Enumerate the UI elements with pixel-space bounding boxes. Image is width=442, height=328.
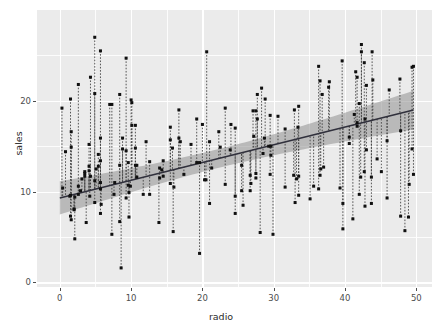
y-tick-label: 0 [13,277,31,287]
data-point [121,147,124,150]
data-point [134,124,137,127]
data-point [217,130,220,133]
data-point [162,175,165,178]
data-point [386,197,389,200]
data-point [148,160,151,163]
data-point [127,161,130,164]
data-point [269,173,272,176]
x-tick-label: 30 [268,293,279,303]
data-point [77,193,80,196]
data-point [403,229,406,232]
data-point [89,175,92,178]
data-point [249,182,252,185]
data-point [130,98,133,101]
data-point [341,227,344,230]
data-point [157,221,160,224]
data-point [162,159,165,162]
data-point [83,175,86,178]
y-axis-title: sales [13,114,24,174]
data-point [113,193,116,196]
data-point [408,183,411,186]
data-point [134,147,137,150]
data-point [190,143,193,146]
data-point [363,61,366,64]
data-point [182,173,185,176]
data-point [125,57,128,60]
data-point [359,176,362,179]
data-point [61,187,64,190]
data-point [70,218,73,221]
y-tick-mark [33,101,36,102]
data-point [254,177,257,180]
data-point [145,140,148,143]
data-point [125,197,128,200]
data-point [93,201,96,204]
data-point [365,84,368,87]
data-point [327,86,330,89]
x-tick-mark [345,288,346,291]
data-point [208,140,211,143]
data-point [69,215,72,218]
data-point [317,65,320,68]
plot-data-layer [0,0,442,328]
data-point [118,220,121,223]
data-point [130,124,133,127]
data-point [60,107,63,110]
data-point [127,191,130,194]
data-point [296,126,299,129]
data-point [399,129,402,132]
x-tick-label: 0 [57,293,62,303]
data-point [134,164,137,167]
data-point [99,49,102,52]
data-point [312,185,315,188]
data-point [99,137,102,140]
data-point [79,189,82,192]
data-point [210,167,213,170]
data-point [169,126,172,129]
data-point [365,148,368,151]
data-point [97,153,100,156]
data-point [363,170,366,173]
data-point [198,161,201,164]
data-point [284,127,287,130]
y-tick-label: 20 [13,96,31,106]
data-point [319,174,322,177]
data-point [399,215,402,218]
data-point [148,193,151,196]
data-point [264,98,267,101]
x-tick-label: 10 [126,293,137,303]
data-point [341,202,344,205]
data-point [360,50,363,53]
data-point [354,70,357,73]
data-point [73,196,76,199]
data-point [260,87,263,90]
x-tick-label: 50 [411,293,422,303]
data-point [272,233,275,236]
data-point [380,170,383,173]
data-point [319,79,322,82]
x-tick-mark [202,288,203,291]
x-tick-mark [60,288,61,291]
data-point [201,123,204,126]
data-point [224,183,227,186]
data-point [127,216,130,219]
data-point [249,189,252,192]
data-point [77,185,80,188]
data-point [169,182,172,185]
data-point [412,65,415,68]
data-point [177,137,180,140]
data-point [317,187,320,190]
data-point [269,154,272,157]
data-point [177,108,180,111]
x-tick-mark [131,288,132,291]
data-point [388,88,391,91]
data-point [309,197,312,200]
data-point [297,175,300,178]
x-tick-label: 20 [197,293,208,303]
data-point [100,203,103,206]
data-point [319,167,322,170]
data-point [64,150,67,153]
data-point [224,107,227,110]
data-point [89,76,92,79]
x-tick-mark [274,288,275,291]
